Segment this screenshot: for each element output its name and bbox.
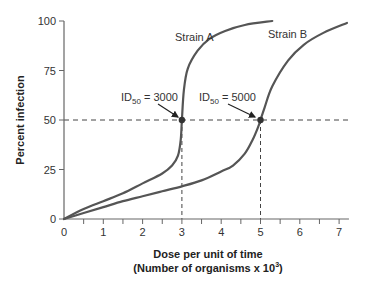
chart: 025507510001234567 Strain A Strain B ID5… xyxy=(0,0,366,281)
y-tick-label: 50 xyxy=(44,114,56,126)
arrow-icon-id50-b xyxy=(228,104,255,117)
y-tick-label: 0 xyxy=(50,213,56,225)
x-tick-label: 7 xyxy=(336,226,342,238)
y-tick-label: 25 xyxy=(44,164,56,176)
series-label-strain-b: Strain B xyxy=(268,28,307,40)
x-tick-label: 3 xyxy=(179,226,185,238)
x-tick-label: 4 xyxy=(218,226,224,238)
x-tick-label: 5 xyxy=(257,226,263,238)
series-label-strain-a: Strain A xyxy=(175,31,214,43)
id50-annotation-strain-b: ID50 = 5000 xyxy=(199,91,256,106)
x-tick-label: 6 xyxy=(297,226,303,238)
x-tick-label: 1 xyxy=(100,226,106,238)
x-axis-subtitle: (Number of organisms x 103) xyxy=(133,261,283,274)
axes: 025507510001234567 xyxy=(38,15,349,238)
reference-lines xyxy=(64,120,349,219)
y-tick-label: 75 xyxy=(44,65,56,77)
y-axis-title: Percent infection xyxy=(14,75,26,165)
series-line-strain-b xyxy=(64,23,347,219)
id50-marker xyxy=(179,117,185,123)
id50-marker xyxy=(257,117,263,123)
x-tick-label: 0 xyxy=(61,226,67,238)
id50-annotation-strain-a: ID50 = 3000 xyxy=(121,91,178,106)
series-group xyxy=(64,21,347,219)
y-tick-label: 100 xyxy=(38,15,56,27)
x-tick-label: 2 xyxy=(140,226,146,238)
arrow-icon-id50-a xyxy=(158,104,178,117)
x-axis-title: Dose per unit of time xyxy=(153,248,262,260)
